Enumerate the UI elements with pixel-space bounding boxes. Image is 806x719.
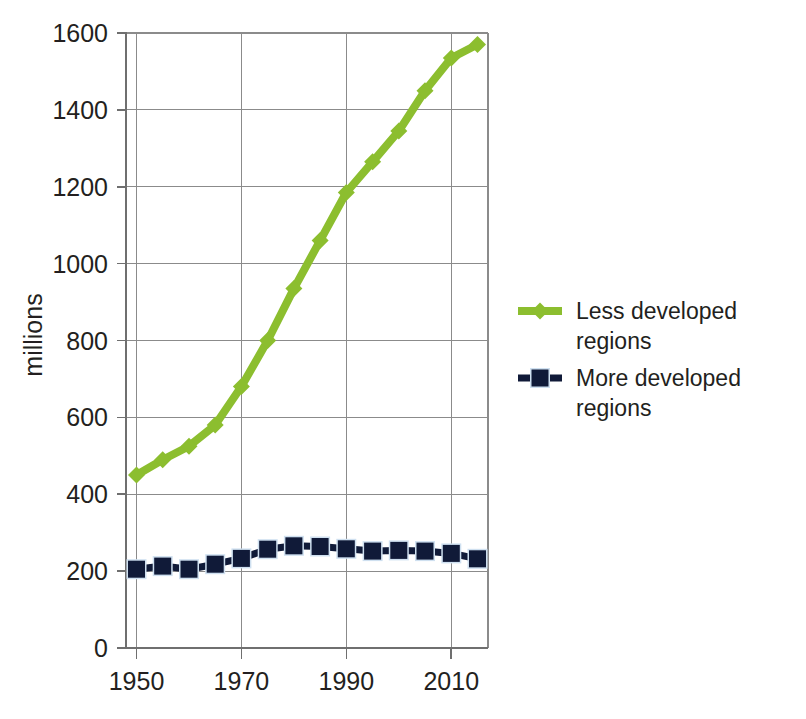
y-tick-label: 0 [94,634,108,662]
y-axis-title: millions [19,293,47,376]
chart-legend: Less developedregionsMore developedregio… [518,298,741,421]
data-point-marker [390,542,407,559]
series-line [137,45,478,476]
series-layer [127,36,488,579]
y-axis-title-label: millions [19,293,47,376]
data-point-marker [417,543,434,560]
legend-item[interactable]: More developedregions [518,365,741,421]
y-tick-label: 400 [66,480,108,508]
data-point-marker [128,561,145,578]
data-point-marker [285,537,302,554]
legend-label: Less developedregions [576,298,737,354]
data-point-marker [312,538,329,555]
data-point-marker [443,545,460,562]
data-point-marker [364,543,381,560]
y-tick-label: 1400 [52,96,108,124]
data-point-marker [154,558,171,575]
y-tick-label: 1600 [52,19,108,47]
x-tick-label: 1950 [109,667,165,695]
chart-container: 02004006008001000120014001600 1950197019… [0,0,806,719]
data-point-marker [233,550,250,567]
chart-series [128,36,486,484]
y-tick-label: 800 [66,327,108,355]
xtick-label-layer: 1950197019902010 [109,667,479,695]
legend-label: More developedregions [576,365,741,421]
y-tick-label: 1000 [52,250,108,278]
data-point-marker [181,561,198,578]
chart-series [127,536,488,579]
ytick-label-layer: 02004006008001000120014001600 [52,19,108,662]
data-point-marker [338,540,355,557]
legend-item[interactable]: Less developedregions [518,298,737,354]
x-tick-label: 2010 [423,667,479,695]
y-tick-label: 1200 [52,173,108,201]
x-tick-label: 1970 [214,667,270,695]
x-tick-label: 1990 [319,667,375,695]
y-tick-label: 200 [66,557,108,585]
y-tick-label: 600 [66,403,108,431]
data-point-marker [469,550,486,567]
data-point-marker [259,541,276,558]
legend-marker [532,303,549,320]
data-point-marker [207,556,224,573]
legend-marker [532,370,549,387]
line-chart: 02004006008001000120014001600 1950197019… [0,0,806,719]
